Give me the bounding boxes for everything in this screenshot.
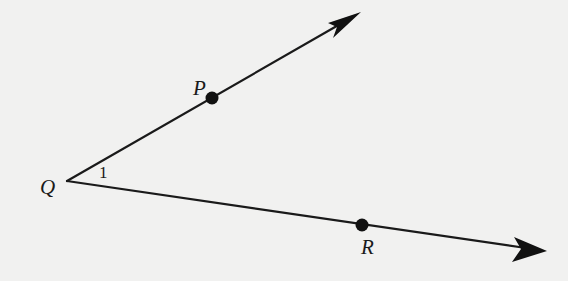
angle-label-1: 1 — [99, 163, 108, 182]
point-label-r: R — [360, 235, 374, 259]
point-p — [206, 92, 219, 105]
arrowhead-up-icon — [328, 12, 361, 38]
point-r — [356, 219, 369, 232]
vertex-label-q: Q — [40, 175, 55, 199]
ray-qp — [67, 23, 342, 181]
ray-qr — [67, 181, 526, 248]
angle-diagram: Q P R 1 — [0, 0, 568, 281]
point-label-p: P — [192, 76, 206, 100]
arrowhead-right-icon — [512, 237, 547, 262]
